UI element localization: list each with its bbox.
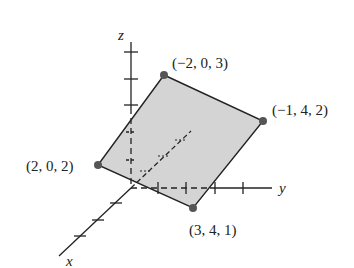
vertex-point <box>94 161 102 169</box>
x-axis-label: x <box>65 253 73 268</box>
y-axis-label: y <box>277 180 286 196</box>
z-axis-label: z <box>117 27 124 43</box>
diagram-canvas: z y x (−2, 0, 3) (−1, 4, 2) (3, 4, 1) (2… <box>0 0 354 268</box>
vertex-label: (−2, 0, 3) <box>172 55 228 72</box>
vertex-label: (2, 0, 2) <box>26 158 74 175</box>
x-axis <box>59 188 131 256</box>
vertex-point <box>189 204 197 212</box>
vertex-label: (−1, 4, 2) <box>272 102 328 119</box>
vertex-label: (3, 4, 1) <box>189 222 237 239</box>
vertex-point <box>259 117 267 125</box>
vertex-point <box>160 71 168 79</box>
